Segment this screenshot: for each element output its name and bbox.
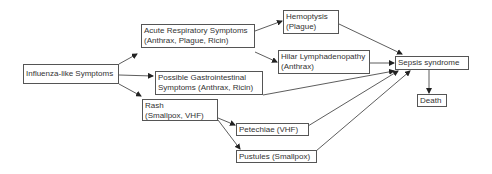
node-hilar-lymphadenopathy: Hilar Lymphadenopathy (Anthrax): [278, 50, 370, 74]
node-label: Sepsis syndrome: [398, 58, 466, 68]
edge-influenza-gastro: [119, 75, 153, 76]
edge-influenza-rash: [119, 84, 141, 96]
node-petechiae: Petechiae (VHF): [236, 123, 309, 136]
node-influenza-like-symptoms: Influenza-like Symptoms: [23, 64, 119, 84]
edge-influenza-respiratory: [119, 54, 137, 64]
node-possible-gastrointestinal-symptoms: Possible Gastrointestinal Symptoms (Anth…: [155, 71, 263, 95]
node-acute-respiratory-symptoms: Acute Respiratory Symptoms (Anthrax, Pla…: [141, 24, 255, 48]
node-label: Rash: [145, 101, 215, 111]
edge-petechiae-sepsis: [308, 71, 398, 126]
node-label: Influenza-like Symptoms: [26, 69, 116, 79]
node-rash: Rash (Smallpox, VHF): [142, 99, 218, 121]
edge-respiratory-hilar: [255, 52, 277, 62]
node-label: Pustules (Smallpox): [239, 152, 314, 162]
node-label: Hemoptysis: [286, 12, 336, 22]
edge-respiratory-hemoptysis: [255, 21, 282, 31]
node-label: Hilar Lymphadenopathy: [281, 52, 367, 62]
node-sublabel: (Anthrax): [281, 62, 367, 72]
node-hemoptysis: Hemoptysis (Plague): [283, 10, 339, 34]
node-label: Acute Respiratory Symptoms: [144, 26, 252, 36]
edge-gastro-sepsis: [263, 71, 394, 95]
node-sublabel: Symptoms (Anthrax, Ricin): [158, 83, 260, 93]
node-sublabel: (Anthrax, Plague, Ricin): [144, 36, 252, 46]
node-label: Petechiae (VHF): [239, 125, 306, 135]
node-label: Possible Gastrointestinal: [158, 73, 260, 83]
node-sublabel: (Smallpox, VHF): [145, 111, 215, 121]
node-sepsis-syndrome: Sepsis syndrome: [395, 56, 469, 70]
node-sublabel: (Plague): [286, 22, 336, 32]
node-death: Death: [417, 94, 447, 107]
node-label: Death: [420, 96, 444, 106]
node-pustules: Pustules (Smallpox): [236, 150, 317, 163]
